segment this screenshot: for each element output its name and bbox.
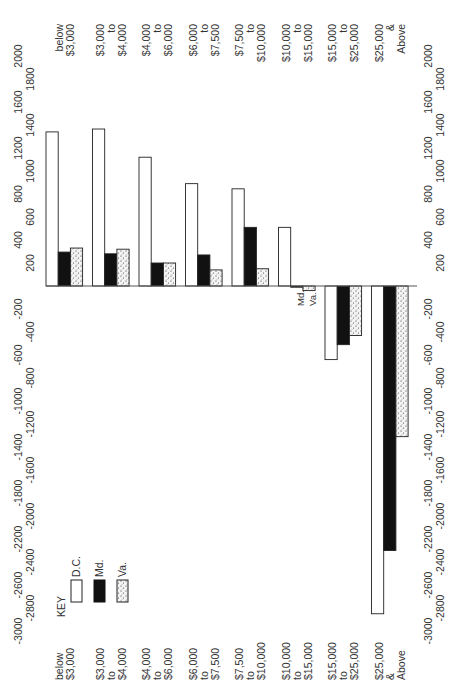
legend: KEY D.C. Md. Va. — [55, 556, 128, 617]
y-tick-label: 1600 — [12, 90, 24, 114]
category-label: Above — [395, 650, 407, 680]
y-tick-label: 400 — [422, 231, 434, 249]
y-tick-label: -1600 — [24, 456, 36, 483]
y-tick-label: -3000 — [12, 617, 24, 644]
y-tick-label: -1000 — [422, 387, 434, 414]
y-tick-label: 1000 — [24, 159, 36, 183]
y-tick-label: -2400 — [434, 548, 446, 575]
y-tick-label: -400 — [24, 321, 36, 342]
category-label: $10,000 — [255, 642, 267, 680]
y-tick-label: 1600 — [422, 90, 434, 114]
bar-md — [384, 286, 396, 551]
legend-title: KEY — [55, 596, 67, 617]
bar-va — [349, 286, 361, 335]
y-tick-label: -2000 — [24, 502, 36, 529]
y-tick-label: -2800 — [434, 594, 446, 621]
y-tick-label: -3000 — [422, 617, 434, 644]
legend-label-dc: D.C. — [70, 556, 82, 577]
y-tick-label: -1800 — [422, 479, 434, 506]
bar-group — [139, 157, 176, 286]
bar-group — [93, 129, 130, 286]
category-label: $4,000 — [116, 24, 128, 56]
category-labels-top: below$3,000$3,000to$4,000$4,000to$6,000$… — [53, 24, 407, 62]
category-labels-bottom: below$3,000$3,000to$4,000$4,000to$6,000$… — [53, 642, 407, 680]
value-axis-left: 200018001600140012001000800600400200-200… — [12, 44, 36, 644]
annotation-md-va: Md. Va. — [295, 290, 318, 306]
bar-md — [105, 254, 117, 286]
category-label: $6,000 — [162, 24, 174, 56]
y-tick-label: -2600 — [422, 571, 434, 598]
category-label: $6,000 — [162, 648, 174, 680]
y-tick-label: -1400 — [12, 433, 24, 460]
y-tick-label: 1000 — [434, 159, 446, 183]
y-tick-label: -800 — [434, 367, 446, 388]
legend-swatch-md — [94, 580, 105, 602]
y-tick-label: 1800 — [24, 67, 36, 91]
y-tick-label: -2200 — [422, 525, 434, 552]
y-tick-label: 800 — [12, 185, 24, 203]
y-tick-label: -1800 — [12, 479, 24, 506]
category-label: $7,500 — [209, 24, 221, 56]
y-tick-label: -400 — [434, 321, 446, 342]
y-tick-label: 800 — [422, 185, 434, 203]
bar-md — [337, 286, 349, 345]
bar-dc — [325, 286, 337, 360]
y-tick-label: 600 — [24, 208, 36, 226]
bar-va — [303, 286, 315, 291]
category-label: $4,000 — [116, 648, 128, 680]
bar-va — [163, 263, 175, 286]
category-label: Above — [395, 24, 407, 54]
bar-group — [372, 286, 409, 614]
annotation-va: Va. — [307, 292, 318, 306]
y-tick-label: -200 — [422, 298, 434, 319]
bar-dc — [372, 286, 384, 614]
bars — [46, 129, 408, 614]
bar-dc — [46, 132, 58, 286]
bar-va — [70, 248, 82, 286]
bar-group — [46, 132, 83, 286]
bar-md — [244, 227, 256, 286]
y-tick-label: -1200 — [24, 410, 36, 437]
y-tick-label: -2600 — [12, 571, 24, 598]
bar-md — [151, 263, 163, 286]
legend-swatch-va — [117, 580, 128, 602]
bar-md — [198, 255, 210, 286]
y-tick-label: -1200 — [434, 410, 446, 437]
y-tick-label: -2800 — [24, 594, 36, 621]
y-tick-label: 1200 — [422, 136, 434, 160]
bar-va — [210, 270, 222, 286]
y-tick-label: 2000 — [422, 44, 434, 68]
category-label: $25,000 — [348, 642, 360, 680]
legend-label-va: Va. — [116, 562, 128, 577]
value-axis-right: 200018001600140012001000800600400200-200… — [422, 44, 446, 644]
y-tick-label: -2400 — [24, 548, 36, 575]
y-tick-label: -200 — [12, 298, 24, 319]
income-bar-chart: 200018001600140012001000800600400200-200… — [0, 0, 460, 684]
y-tick-label: 200 — [434, 254, 446, 272]
y-tick-label: 1400 — [24, 113, 36, 137]
annotation-md: Md. — [295, 290, 306, 306]
legend-label-md: Md. — [93, 559, 105, 577]
y-tick-label: -600 — [422, 344, 434, 365]
bar-group — [325, 286, 362, 360]
bar-md — [58, 252, 70, 286]
y-tick-label: -2000 — [434, 502, 446, 529]
y-tick-label: 1800 — [434, 67, 446, 91]
bar-dc — [279, 227, 291, 286]
category-label: $7,500 — [209, 648, 221, 680]
bar-va — [117, 249, 129, 286]
category-label: $25,000 — [348, 24, 360, 62]
y-tick-label: 2000 — [12, 44, 24, 68]
y-tick-label: 1200 — [12, 136, 24, 160]
category-label: $15,000 — [302, 24, 314, 62]
y-tick-label: -1400 — [422, 433, 434, 460]
bar-dc — [186, 184, 198, 286]
category-label: $3,000 — [64, 648, 76, 680]
y-tick-label: 1400 — [434, 113, 446, 137]
category-label: $10,000 — [255, 24, 267, 62]
bar-group — [186, 184, 223, 286]
bar-dc — [232, 189, 244, 286]
y-tick-label: 200 — [24, 254, 36, 272]
bar-va — [256, 269, 268, 286]
bar-dc — [93, 129, 105, 286]
